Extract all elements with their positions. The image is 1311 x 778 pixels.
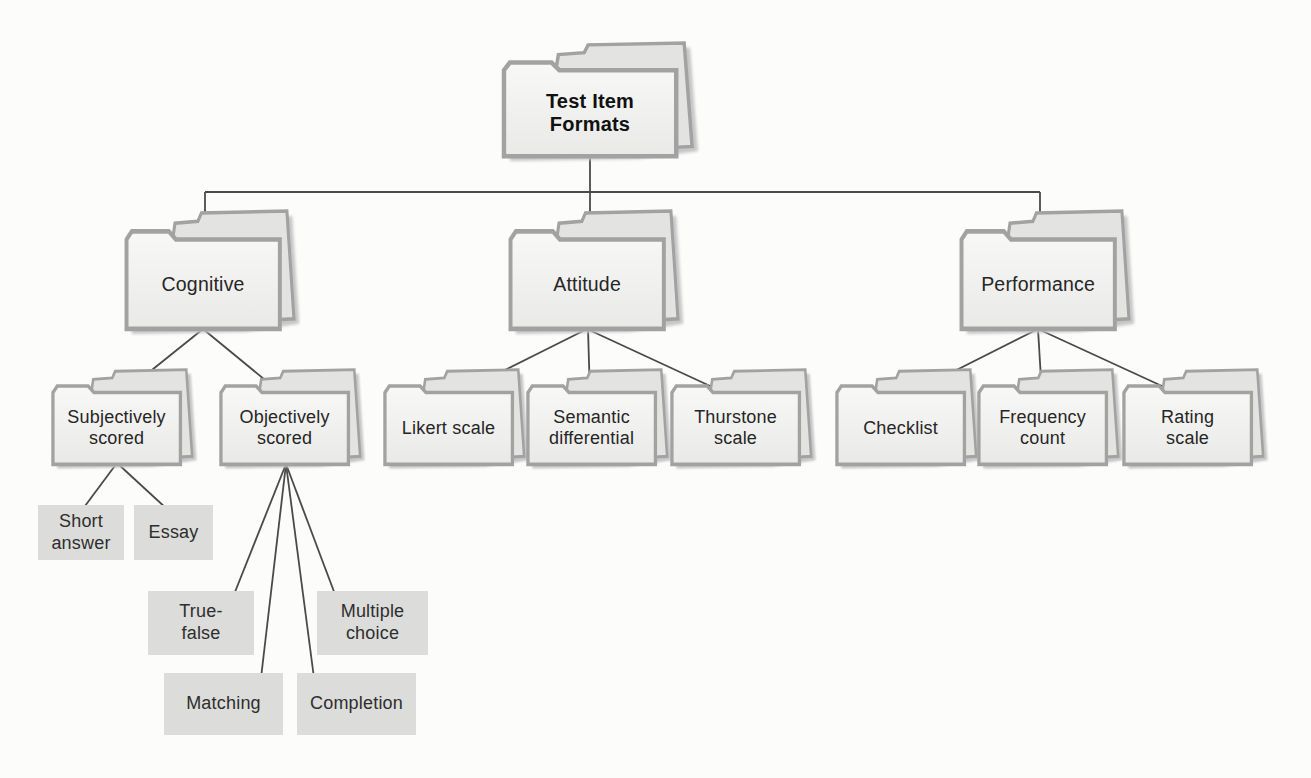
folder-rating-scale: Rating scale xyxy=(1121,368,1269,471)
box-multiple-choice: Multiple choice xyxy=(317,591,428,655)
folder-objectively-scored-label: Objectively scored xyxy=(221,393,348,465)
box-true-false: True- false xyxy=(148,591,254,655)
connector-objectively-multiple-choice xyxy=(286,464,336,597)
box-matching: Matching xyxy=(164,673,283,735)
folder-test-item-formats: Test Item Formats xyxy=(500,41,700,164)
folder-subjectively-scored: Subjectively scored xyxy=(50,368,198,471)
folder-cognitive: Cognitive xyxy=(123,209,301,337)
diagram-canvas: Test Item Formats Cognitive Attitude Per… xyxy=(0,0,1311,778)
folder-thurstone-scale-label: Thurstone scale xyxy=(672,393,799,465)
folder-likert-scale-label: Likert scale xyxy=(385,393,512,465)
folder-frequency-count: Frequency count xyxy=(976,368,1124,471)
folder-attitude: Attitude xyxy=(507,209,685,337)
folder-cognitive-label: Cognitive xyxy=(127,239,280,328)
folder-likert-scale: Likert scale xyxy=(382,368,530,471)
folder-performance-label: Performance xyxy=(962,239,1115,328)
folder-attitude-label: Attitude xyxy=(511,239,664,328)
box-short-answer: Short answer xyxy=(38,505,124,560)
connector-objectively-completion xyxy=(286,464,314,678)
folder-checklist: Checklist xyxy=(834,368,982,471)
folder-subjectively-scored-label: Subjectively scored xyxy=(53,393,180,465)
folder-frequency-count-label: Frequency count xyxy=(979,393,1106,465)
folder-thurstone-scale: Thurstone scale xyxy=(669,368,817,471)
folder-performance: Performance xyxy=(958,209,1136,337)
folder-rating-scale-label: Rating scale xyxy=(1124,393,1251,465)
folder-test-item-formats-label: Test Item Formats xyxy=(504,70,676,156)
folder-checklist-label: Checklist xyxy=(837,393,964,465)
folder-objectively-scored: Objectively scored xyxy=(218,368,366,471)
folder-semantic-differential-label: Semantic differential xyxy=(528,393,655,465)
box-essay: Essay xyxy=(134,505,213,560)
folder-semantic-differential: Semantic differential xyxy=(525,368,673,471)
box-completion: Completion xyxy=(297,673,416,735)
